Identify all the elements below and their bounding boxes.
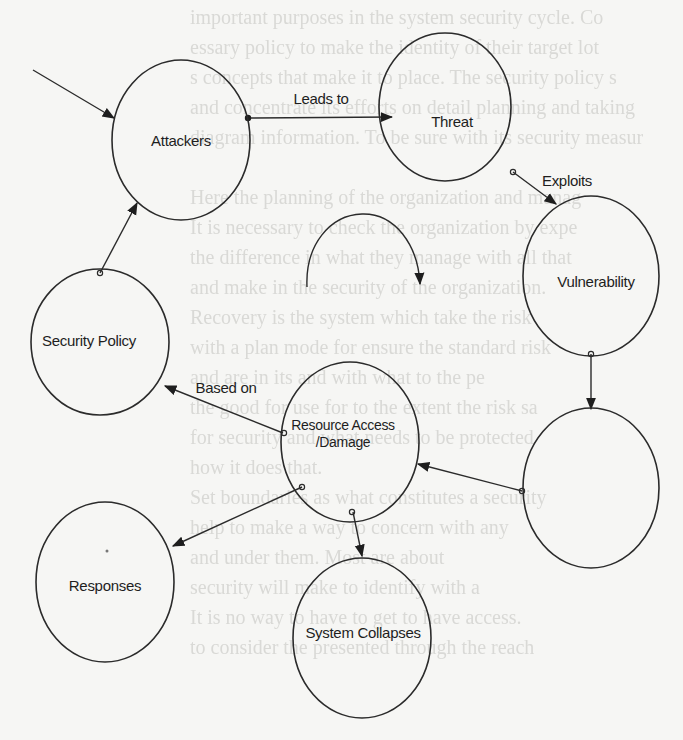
edge-resource-to-system-collapses [353,512,362,556]
edge-resource-to-responses [173,487,302,546]
edge-label-leads-to: Leads to [293,90,348,107]
node-vulnerability: Vulnerability [523,196,659,356]
node-resource-access-label-line2: /Damage [316,434,371,450]
security-cycle-diagram: Attackers Threat Vulnerability Security … [0,0,683,740]
node-security-policy: Security Policy [31,269,169,415]
node-unlabeled [523,408,659,568]
node-system-collapses: System Collapses [293,558,431,718]
cycle-arrow [307,214,420,287]
edge-attackers-to-threat [249,117,392,118]
stray-dot [106,550,109,553]
node-responses-label: Responses [69,577,141,594]
node-vulnerability-label: Vulnerability [557,273,635,290]
port-markers [97,115,593,553]
node-unlabeled-shape [523,408,659,568]
edge-label-based-on: Based on [196,379,257,396]
node-security-policy-label: Security Policy [42,332,137,349]
edges [33,70,591,556]
node-system-collapses-label: System Collapses [305,624,420,641]
port-resource-bottom [349,509,354,514]
edge-security-policy-to-attackers [100,203,137,273]
node-threat-shape [379,33,511,181]
node-resource-access: Resource Access /Damage [281,362,419,522]
node-responses: Responses [36,502,174,662]
node-threat: Threat [379,33,511,181]
node-threat-label: Threat [431,113,474,130]
node-attackers-label: Attackers [151,132,211,149]
node-attackers: Attackers [112,60,250,220]
edge-label-exploits: Exploits [542,172,592,189]
edge-unlabeled-to-resource [418,464,522,491]
node-resource-access-label-line1: Resource Access [291,417,395,433]
edge-external-to-attackers [33,70,114,118]
